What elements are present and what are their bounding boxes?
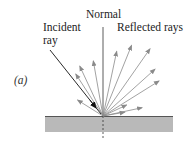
reflected-rays bbox=[76, 46, 159, 117]
reflected-ray bbox=[103, 81, 159, 116]
incident-label-line2: ray bbox=[43, 34, 58, 47]
panel-label: (a) bbox=[14, 74, 28, 87]
reflected-ray bbox=[93, 61, 103, 116]
reflected-rays-label: Reflected rays bbox=[117, 21, 184, 34]
diffuse-reflection-diagram: Normal Incident ray Reflected rays (a) bbox=[0, 0, 184, 145]
reflecting-surface bbox=[45, 116, 173, 132]
reflected-ray bbox=[103, 69, 155, 116]
incident-label-line1: Incident bbox=[43, 21, 81, 33]
normal-label: Normal bbox=[86, 8, 121, 20]
